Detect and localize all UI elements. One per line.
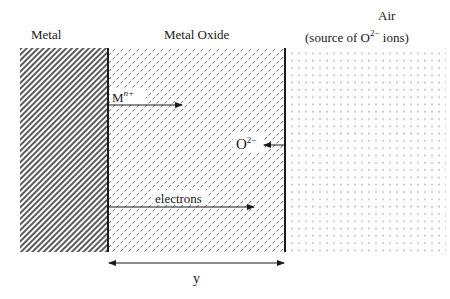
oxygen-ion-label: O2− xyxy=(236,137,256,152)
air-source-sup: 2− xyxy=(370,28,380,38)
metal-oxide-label: Metal Oxide xyxy=(164,28,229,41)
thickness-label: y xyxy=(193,272,200,286)
metal-ion-label: Mn+ xyxy=(112,91,134,104)
air-source-prefix: (source of O xyxy=(305,30,370,45)
oxygen-ion-base: O xyxy=(236,136,247,152)
air-label: Air xyxy=(378,9,395,22)
oxygen-ion-charge: 2− xyxy=(247,135,257,145)
electrons-label: electrons xyxy=(155,192,202,205)
air-source-label: (source of O2− ions) xyxy=(305,31,409,44)
air-source-suffix: ions) xyxy=(380,30,409,45)
metal-region xyxy=(20,48,108,252)
metal-label: Metal xyxy=(31,28,61,41)
metal-ion-base: M xyxy=(112,90,124,105)
metal-ion-charge: n+ xyxy=(124,88,135,98)
air-region xyxy=(286,48,446,252)
